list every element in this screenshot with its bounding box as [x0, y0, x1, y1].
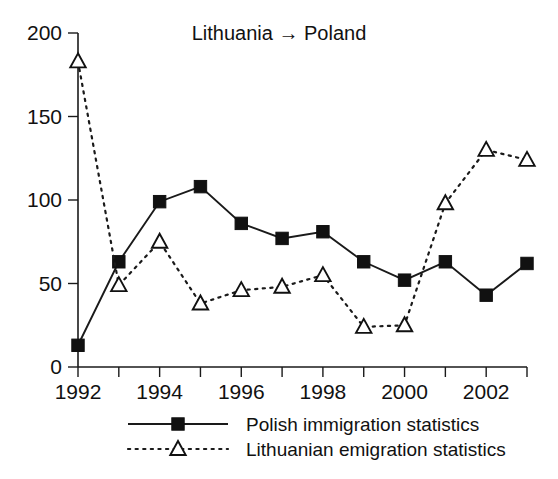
chart-legend: Polish immigration statisticsLithuanian … — [128, 414, 506, 460]
y-tick-label: 50 — [39, 272, 62, 295]
series-layer — [70, 53, 534, 351]
x-tick-label: 1998 — [300, 380, 347, 403]
y-tick-label: 200 — [27, 21, 62, 44]
series-2 — [70, 53, 534, 333]
line-chart: Lithuania → Poland 050100150200 19921994… — [0, 0, 558, 479]
data-point-marker — [317, 226, 329, 238]
data-point-marker — [439, 256, 451, 268]
x-tick-label: 2000 — [381, 380, 428, 403]
data-point-marker — [172, 418, 184, 430]
legend-label: Lithuanian emigration statistics — [246, 439, 506, 460]
data-point-marker — [521, 257, 533, 269]
legend-label: Polish immigration statistics — [246, 414, 479, 435]
x-tick-label: 1992 — [55, 380, 102, 403]
legend-item: Lithuanian emigration statistics — [128, 439, 506, 460]
series-line — [78, 187, 527, 346]
data-point-marker — [276, 232, 288, 244]
y-tick-label: 0 — [50, 355, 62, 378]
data-point-marker — [478, 142, 493, 156]
y-axis-ticks: 050100150200 — [27, 21, 78, 378]
y-tick-label: 100 — [27, 188, 62, 211]
series-1 — [72, 180, 533, 351]
chart-figure: Lithuania → Poland 050100150200 19921994… — [0, 0, 558, 479]
x-tick-label: 2002 — [463, 380, 510, 403]
data-point-marker — [397, 317, 412, 331]
data-point-marker — [194, 180, 206, 192]
data-point-marker — [72, 339, 84, 351]
data-point-marker — [235, 217, 247, 229]
data-point-marker — [358, 256, 370, 268]
chart-title: Lithuania → Poland — [192, 22, 367, 44]
y-tick-label: 150 — [27, 105, 62, 128]
data-point-marker — [152, 234, 167, 248]
x-tick-label: 1996 — [218, 380, 265, 403]
legend-item: Polish immigration statistics — [128, 414, 479, 435]
data-point-marker — [70, 53, 85, 67]
data-point-marker — [398, 274, 410, 286]
data-point-marker — [519, 152, 534, 166]
data-point-marker — [315, 267, 330, 281]
x-tick-label: 1994 — [136, 380, 183, 403]
x-axis-ticks: 199219941996199820002002 — [55, 367, 527, 403]
data-point-marker — [153, 195, 165, 207]
series-line — [78, 61, 527, 327]
data-point-marker — [356, 319, 371, 333]
data-point-marker — [480, 289, 492, 301]
